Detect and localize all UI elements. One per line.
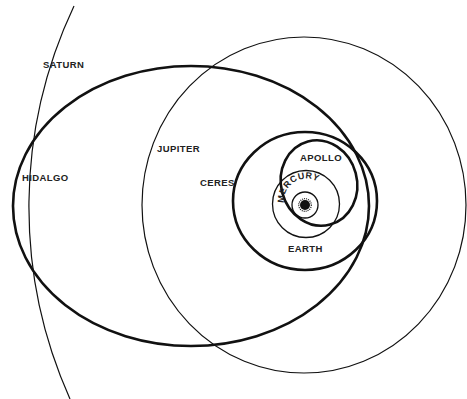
saturn-label: SATURN: [43, 60, 84, 70]
jupiter-label: JUPITER: [157, 144, 200, 154]
mercury-label: MERCURY: [276, 170, 322, 203]
earth-label: EARTH: [288, 244, 323, 254]
ceres-label: CERES: [200, 178, 235, 188]
sun-icon: [299, 199, 312, 212]
apollo-label: APOLLO: [300, 153, 342, 163]
hidalgo-label: HIDALGO: [22, 173, 69, 183]
hidalgo-orbit: [13, 66, 369, 346]
